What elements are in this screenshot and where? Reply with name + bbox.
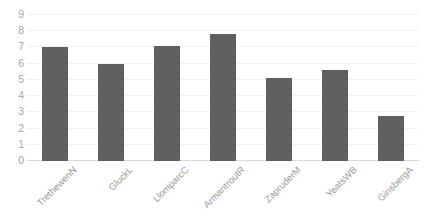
bar-chart: 0123456789 TrethewenNGluckLLlomparcCArma… <box>0 0 426 220</box>
bars-layer <box>27 0 419 161</box>
bar <box>98 64 124 161</box>
bar <box>322 70 348 161</box>
y-axis-tick-label: 8 <box>2 25 24 35</box>
y-axis-tick-label: 5 <box>2 74 24 84</box>
bar <box>154 46 180 161</box>
bar <box>42 47 68 161</box>
y-axis-tick-labels: 0123456789 <box>0 0 24 175</box>
y-axis-tick-label: 7 <box>2 41 24 51</box>
bar <box>378 116 404 161</box>
bar <box>210 34 236 161</box>
bar <box>266 78 292 161</box>
y-axis-tick-label: 1 <box>2 139 24 149</box>
y-axis-tick-label: 4 <box>2 90 24 100</box>
y-axis-tick-label: 2 <box>2 123 24 133</box>
y-axis-tick-label: 9 <box>2 9 24 19</box>
y-axis-tick-label: 3 <box>2 106 24 116</box>
y-axis-tick-label: 0 <box>2 155 24 165</box>
y-axis-tick-label: 6 <box>2 58 24 68</box>
x-axis-category-labels: TrethewenNGluckLLlomparcCArmantroutRZapr… <box>27 161 419 220</box>
